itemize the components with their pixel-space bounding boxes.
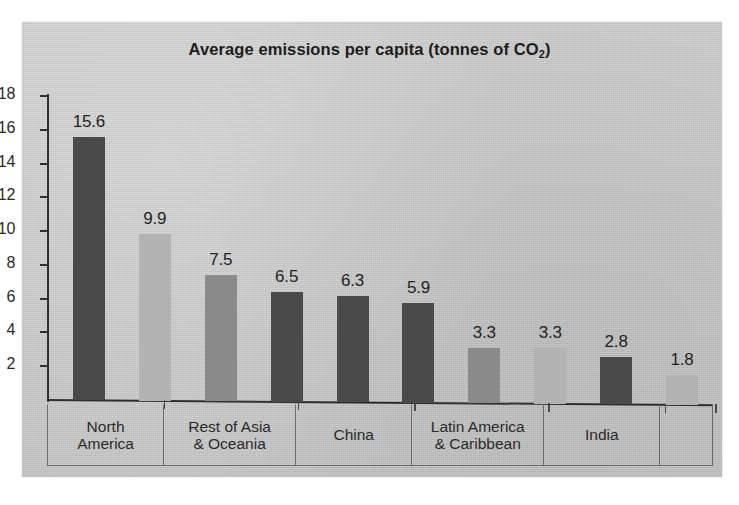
bar-value-label: 15.6 (59, 112, 119, 132)
bar (205, 275, 237, 402)
bar-value-label: 9.9 (125, 209, 185, 229)
plot-area: 18161412108642 15.69.97.56.56.35.93.33.3… (0, 0, 739, 505)
bar (337, 296, 369, 402)
category-label-line1: North (77, 418, 134, 435)
category-label-line2: America (77, 435, 134, 452)
bar-value-label: 6.3 (323, 271, 383, 291)
x-axis-category-cell: NorthAmerica (47, 404, 163, 466)
x-axis-category-cell: Latin America& Caribbean (411, 404, 543, 466)
bar (139, 234, 171, 401)
category-label-line2: & Oceania (188, 435, 271, 452)
x-axis-category-cell (659, 404, 713, 466)
x-axis-category-cell: Rest of Asia& Oceania (163, 404, 295, 466)
x-axis-label-table: NorthAmericaRest of Asia& OceaniaChinaLa… (47, 404, 713, 466)
bar (271, 292, 303, 402)
bar (534, 348, 566, 404)
bar-value-label: 7.5 (191, 250, 251, 270)
bar (73, 137, 105, 400)
category-label-line1: India (585, 426, 619, 443)
x-axis-category-cell: China (295, 404, 411, 466)
bar-value-label: 1.8 (652, 350, 712, 370)
bar (600, 357, 632, 404)
category-label-line1: China (333, 426, 374, 443)
x-axis-category-label: China (333, 426, 374, 443)
bar-value-label: 3.3 (454, 323, 514, 343)
bar (468, 348, 500, 404)
category-label-line1: Rest of Asia (188, 418, 271, 435)
x-axis-tick (715, 404, 717, 413)
bar (402, 303, 434, 403)
x-axis-category-label: NorthAmerica (77, 418, 134, 453)
bar-value-label: 3.3 (520, 323, 580, 343)
category-label-line1: Latin America (431, 418, 525, 435)
x-axis-category-cell: India (543, 404, 659, 466)
bar-series: 15.69.97.56.56.35.93.33.32.81.8 (0, 0, 739, 400)
x-axis-category-label: Latin America& Caribbean (431, 418, 525, 453)
x-axis-category-label: India (585, 426, 619, 443)
x-axis-category-label: Rest of Asia& Oceania (188, 418, 271, 453)
bar-value-label: 5.9 (388, 278, 448, 298)
bar (666, 375, 698, 405)
bar-value-label: 6.5 (257, 267, 317, 287)
category-label-line2: & Caribbean (431, 435, 525, 452)
bar-value-label: 2.8 (586, 332, 646, 352)
scanned-page: Average emissions per capita (tonnes of … (0, 0, 739, 505)
